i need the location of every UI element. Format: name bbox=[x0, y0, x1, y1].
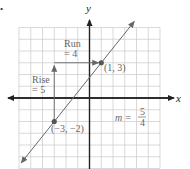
slope-numerator: 5 bbox=[140, 106, 145, 117]
run-label-line2: = 4 bbox=[64, 48, 77, 59]
slope-prefix: m = bbox=[115, 112, 131, 123]
rise-label-line2: = 5 bbox=[32, 84, 45, 95]
slope-denominator: 4 bbox=[140, 117, 145, 128]
point-label-a: (−3, −2) bbox=[51, 123, 84, 135]
y-axis-label: y bbox=[85, 2, 91, 14]
series-line-upper bbox=[78, 22, 134, 93]
point-label-b: (1, 3) bbox=[104, 62, 126, 74]
x-axis-label: x bbox=[175, 92, 181, 104]
corner-mark: • bbox=[0, 4, 3, 14]
coordinate-plane: • x y Run = 4 Rise = 5 (1, 3) (−3, −2) m… bbox=[0, 0, 190, 169]
